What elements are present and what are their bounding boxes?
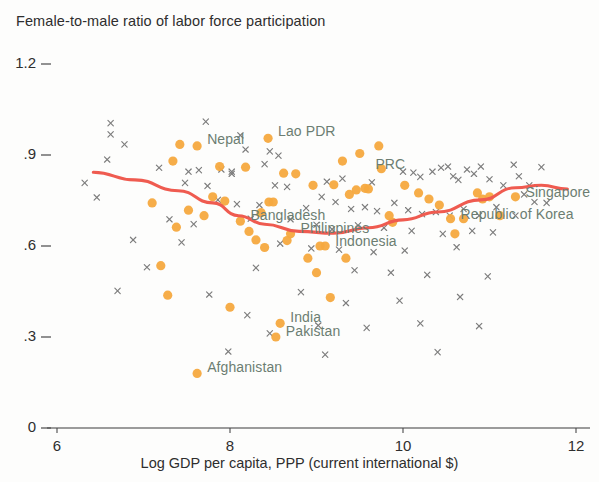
scatter-marker-x [478, 164, 483, 169]
scatter-marker-x [511, 162, 516, 167]
scatter-marker-x [115, 288, 120, 293]
scatter-marker-dot [269, 197, 278, 206]
scatter-marker-x [319, 194, 324, 199]
scatter-marker-dot [215, 162, 224, 171]
scatter-marker-x [425, 272, 430, 277]
scatter-marker-x [364, 325, 369, 330]
point-label-singapore: Singapore [525, 184, 590, 200]
scatter-marker-x [272, 183, 277, 188]
scatter-marker-x [262, 161, 267, 166]
scatter-plot-canvas [0, 0, 599, 482]
scatter-marker-dot [329, 180, 338, 189]
scatter-marker-x [277, 241, 282, 246]
scatter-marker-x [435, 349, 440, 354]
scatter-marker-dot [400, 181, 409, 190]
scatter-marker-x [490, 230, 495, 235]
highlighted-economies-markers [148, 134, 521, 378]
scatter-marker-dot [282, 236, 291, 245]
scatter-marker-x [276, 153, 281, 158]
x-tick-label: 8 [210, 437, 250, 454]
point-label-pakistan: Pakistan [286, 323, 341, 339]
scatter-marker-x [144, 265, 149, 270]
scatter-marker-x [130, 237, 135, 242]
scatter-marker-x [186, 169, 191, 174]
scatter-marker-dot [308, 181, 317, 190]
scatter-marker-dot [193, 369, 202, 378]
scatter-marker-x [179, 240, 184, 245]
scatter-marker-x [464, 167, 469, 172]
scatter-marker-x [108, 132, 113, 137]
scatter-marker-x [397, 298, 402, 303]
scatter-marker-x [191, 221, 196, 226]
scatter-marker-x [182, 180, 187, 185]
scatter-marker-x [322, 352, 327, 357]
x-tick-label: 12 [556, 437, 596, 454]
scatter-marker-x [284, 184, 289, 189]
scatter-marker-x [487, 177, 492, 182]
scatter-marker-x [388, 270, 393, 275]
scatter-marker-x [94, 195, 99, 200]
scatter-marker-x [234, 201, 239, 206]
scatter-marker-x [253, 265, 258, 270]
scatter-marker-x [333, 199, 338, 204]
scatter-marker-x [207, 292, 212, 297]
scatter-marker-x [392, 200, 397, 205]
scatter-marker-x [430, 169, 435, 174]
x-tick-label: 10 [383, 437, 423, 454]
x-axis-title: Log GDP per capita, PPP (current interna… [0, 455, 599, 471]
scatter-marker-dot [225, 303, 234, 312]
scatter-marker-dot [424, 194, 433, 203]
scatter-marker-x [196, 167, 201, 172]
scatter-marker-x [226, 349, 231, 354]
scatter-marker-dot [374, 141, 383, 150]
scatter-marker-x [471, 171, 476, 176]
scatter-marker-dot [271, 332, 280, 341]
scatter-marker-dot [352, 185, 361, 194]
scatter-marker-dot [414, 188, 423, 197]
y-tick-label: .3 [2, 327, 36, 344]
scatter-marker-dot [326, 293, 335, 302]
scatter-marker-x [405, 208, 410, 213]
scatter-marker-x [362, 204, 367, 209]
scatter-marker-x [298, 289, 303, 294]
scatter-marker-dot [303, 254, 312, 263]
scatter-marker-dot [184, 206, 193, 215]
scatter-marker-x [245, 312, 250, 317]
scatter-marker-x [122, 142, 127, 147]
scatter-marker-x [104, 157, 109, 162]
scatter-marker-x [532, 199, 537, 204]
scatter-marker-x [418, 321, 423, 326]
scatter-marker-x [438, 165, 443, 170]
scatter-marker-x [352, 268, 357, 273]
y-tick-label: .6 [2, 236, 36, 253]
x-tick-label: 6 [37, 437, 77, 454]
scatter-marker-dot [163, 291, 172, 300]
scatter-marker-x [374, 208, 379, 213]
scatter-marker-x [440, 231, 445, 236]
scatter-marker-x [457, 294, 462, 299]
scatter-marker-x [539, 164, 544, 169]
scatter-marker-x [243, 147, 248, 152]
scatter-marker-dot [263, 134, 272, 143]
scatter-marker-dot [208, 192, 217, 201]
scatter-marker-dot [175, 140, 184, 149]
scatter-marker-x [108, 120, 113, 125]
scatter-marker-dot [312, 268, 321, 277]
scatter-marker-dot [156, 261, 165, 270]
scatter-marker-dot [241, 163, 250, 172]
y-tick-label: 1.2 [2, 54, 36, 71]
scatter-marker-dot [199, 211, 208, 220]
scatter-marker-dot [315, 241, 324, 250]
point-label-lao-pdr: Lao PDR [278, 123, 336, 139]
point-label-prc: PRC [375, 156, 405, 172]
y-tick-label: .9 [2, 145, 36, 162]
scatter-marker-x [343, 300, 348, 305]
scatter-marker-x [167, 217, 172, 222]
scatter-marker-x [516, 174, 521, 179]
scatter-marker-x [309, 246, 314, 251]
scatter-marker-x [340, 176, 345, 181]
axis-layer [41, 64, 590, 433]
scatter-marker-x [411, 170, 416, 175]
scatter-marker-dot [450, 229, 459, 238]
point-label-nepal: Nepal [207, 131, 244, 147]
